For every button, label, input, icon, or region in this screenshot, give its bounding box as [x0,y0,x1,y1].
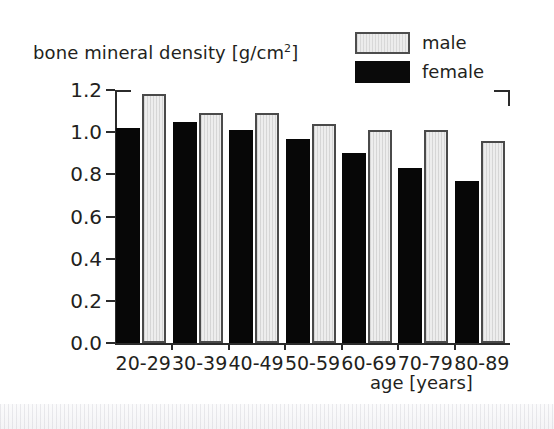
bar-female-80-89 [455,181,479,343]
bar-female-20-29 [116,128,140,343]
male-swatch-icon [355,32,410,54]
x-tick-label-20-29: 20-29 [116,352,171,374]
y-axis-title: bone mineral density [g/cm2] [33,42,298,63]
y-tick-label: 0.4 [70,246,102,270]
legend: male female [355,28,484,86]
y-axis-title-text: bone mineral density [g/cm [33,42,284,63]
bar-female-40-49 [229,130,253,343]
legend-entry-female: female [355,57,484,86]
x-tick-label-70-79: 70-79 [398,352,453,374]
x-tick-mark [284,343,286,350]
y-tick-mark [106,173,115,175]
x-axis-title: age [years] [370,372,473,393]
x-tick-label-60-69: 60-69 [341,352,396,374]
y-tick-mark [106,89,115,91]
y-tick-mark [106,216,115,218]
bar-male-40-49 [255,113,279,343]
bar-male-80-89 [481,141,505,343]
x-tick-label-50-59: 50-59 [285,352,340,374]
y-tick-label: 0.8 [70,162,102,186]
x-tick-mark [397,343,399,350]
x-tick-mark [341,343,343,350]
bar-male-20-29 [142,94,166,343]
axis-frame-right-stub [508,90,510,106]
legend-label-male: male [422,32,467,53]
y-tick-mark [106,300,115,302]
x-axis-line [115,343,510,345]
legend-label-female: female [422,61,484,82]
female-swatch-icon [355,61,410,83]
y-tick-mark [106,342,115,344]
x-tick-mark [454,343,456,350]
bar-female-30-39 [173,122,197,343]
y-tick-mark [106,258,115,260]
y-tick-label: 1.2 [70,78,102,102]
y-tick-label: 0.6 [70,204,102,228]
legend-entry-male: male [355,28,484,57]
bar-chart-figure: bone mineral density [g/cm2] male female… [0,0,554,429]
scan-artifact-strip [0,404,554,429]
x-tick-mark [171,343,173,350]
bar-female-50-59 [286,139,310,344]
bar-male-50-59 [312,124,336,343]
x-tick-label-30-39: 30-39 [172,352,227,374]
bar-male-60-69 [368,130,392,343]
x-tick-label-40-49: 40-49 [228,352,283,374]
y-axis-title-suffix: ] [291,42,298,63]
axis-frame-top-left-stub [115,90,131,92]
y-tick-label: 1.0 [70,120,102,144]
x-tick-label-80-89: 80-89 [454,352,509,374]
y-tick-label: 0.0 [70,331,102,355]
y-tick-label: 0.2 [70,288,102,312]
y-tick-mark [106,131,115,133]
bar-female-70-79 [398,168,422,343]
x-tick-mark [228,343,230,350]
bar-male-70-79 [424,130,448,343]
bar-female-60-69 [342,153,366,343]
bar-male-30-39 [199,113,223,343]
plot-area: 0.00.20.40.60.81.01.2 20-2930-3940-4950-… [115,90,510,343]
